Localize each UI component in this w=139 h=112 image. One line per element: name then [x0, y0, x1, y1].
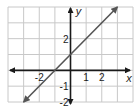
- x-tick-label: 1: [83, 72, 89, 83]
- x-axis-label: x: [125, 72, 132, 84]
- coordinate-plane: -2122-1-2xy: [0, 0, 139, 112]
- y-tick-label: 2: [63, 34, 69, 45]
- y-tick-label: -1: [60, 81, 69, 92]
- x-tick-label: -2: [35, 72, 44, 83]
- x-tick-label: 2: [99, 72, 105, 83]
- y-tick-label: -2: [60, 97, 69, 108]
